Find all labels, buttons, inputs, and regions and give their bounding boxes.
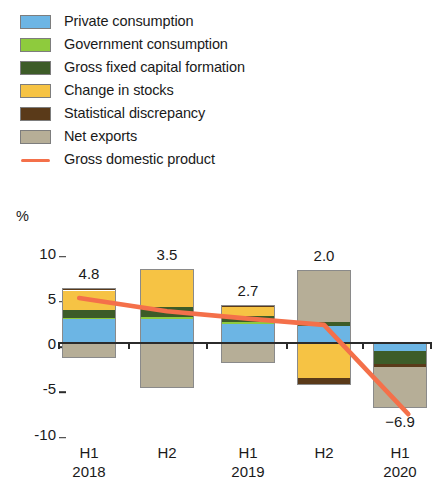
bar-value-label: 2.7	[238, 282, 259, 299]
gdp-line-series	[0, 0, 433, 483]
chart-plot-area: % 1050-5-10 4.83.52.72.0−6.9 H12018H2H12…	[0, 0, 433, 483]
x-axis-label: H2	[314, 443, 333, 462]
x-axis-label: H12018	[72, 443, 105, 481]
x-axis-label-year: 2020	[383, 462, 416, 481]
x-axis-label-half: H2	[157, 443, 176, 462]
x-axis-label: H12020	[383, 443, 416, 481]
x-axis-label-half: H2	[314, 443, 333, 462]
bar-value-label: −6.9	[385, 413, 415, 430]
x-axis-label-half: H1	[383, 443, 416, 462]
x-axis-label: H12019	[231, 443, 264, 481]
x-axis-label-half: H1	[231, 443, 264, 462]
bar-value-label: 4.8	[79, 265, 100, 282]
bar-value-label: 3.5	[157, 246, 178, 263]
x-axis-label: H2	[157, 443, 176, 462]
x-axis-label-year: 2018	[72, 462, 105, 481]
x-axis-label-year: 2019	[231, 462, 264, 481]
x-axis-label-half: H1	[72, 443, 105, 462]
gdp-line-path	[79, 298, 408, 414]
bar-value-label: 2.0	[314, 247, 335, 264]
